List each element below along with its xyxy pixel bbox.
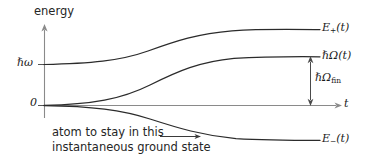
note-leader-arrow [160,134,201,139]
energy-level-figure: energy t ℏω 0 E+(t) ℏΩ(t) E−(t) ℏΩfin at… [0,0,374,161]
curve-e-plus [44,29,320,64]
y-tick-hbar-omega: ℏω [17,57,33,68]
note-line-1: atom to stay in this [52,127,164,139]
curve-label-hbar-omega: ℏΩ(t) [322,50,351,61]
y-axis-label: energy [34,6,74,18]
final-gap-label: ℏΩfin [315,72,341,85]
curve-label-e-plus-base: E [322,21,330,34]
curve-hbar-omega [44,57,320,106]
note-line-2: instantaneous ground state [52,142,211,154]
curve-label-e-minus-arg: (t) [336,132,349,145]
y-tick-zero: 0 [30,97,37,108]
final-gap-arrow [308,56,314,106]
curve-label-e-plus: E+(t) [322,22,349,35]
y-axis [41,24,47,118]
final-gap-base: ℏΩ [315,71,331,84]
curve-label-hbar-omega-base: ℏΩ [322,49,338,62]
curve-label-e-plus-arg: (t) [336,21,349,34]
curve-label-hbar-omega-arg: (t) [338,49,351,62]
curve-label-e-minus: E−(t) [322,133,349,146]
curve-label-e-minus-base: E [322,132,330,145]
x-axis-label: t [344,98,348,109]
final-gap-sub: fin [331,76,341,85]
